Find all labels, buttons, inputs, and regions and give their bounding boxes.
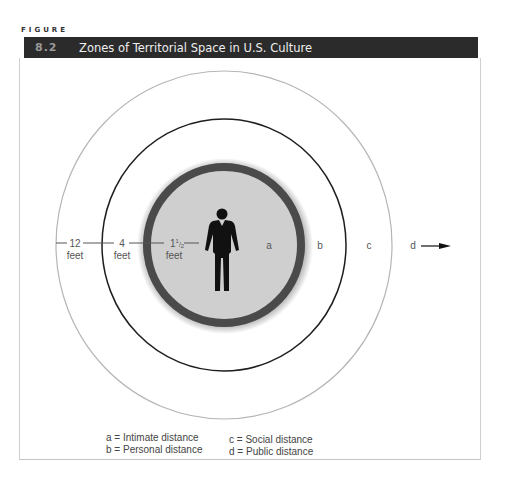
legend-item-intimate: a = Intimate distance	[106, 432, 202, 444]
distance-4-unit: feet	[114, 250, 131, 261]
legend-item-public: d = Public distance	[229, 446, 313, 458]
zone-letter-b: b	[317, 240, 323, 251]
distance-4-value: 4	[119, 238, 125, 249]
legend-column-1: a = Intimate distance b = Personal dista…	[106, 432, 202, 456]
territorial-zones-diagram: 12 feet 4 feet 11/2 feet a b c d	[0, 0, 512, 487]
arrow-right-icon	[421, 243, 451, 249]
zone-letter-a: a	[266, 240, 272, 251]
zone-letter-c: c	[367, 240, 372, 251]
zone-letter-d: d	[410, 240, 416, 251]
legend-column-2: c = Social distance d = Public distance	[229, 434, 313, 458]
distance-12-unit: feet	[67, 250, 84, 261]
legend-item-social: c = Social distance	[229, 434, 313, 446]
distance-1-5-unit: feet	[166, 250, 183, 261]
legend-item-personal: b = Personal distance	[106, 444, 202, 456]
distance-12-value: 12	[69, 238, 81, 249]
